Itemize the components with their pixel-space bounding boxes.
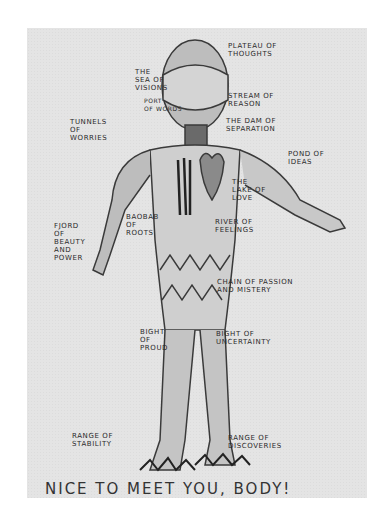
- label-fjord-of-beauty-and-power: FJORD OF BEAUTY AND POWER: [54, 222, 85, 262]
- label-lake-of-love: THE LAKE OF LOVE: [232, 178, 266, 202]
- label-pond-of-ideas: POND OF IDEAS: [288, 150, 324, 166]
- label-dam-of-separation: THE DAM OF SEPARATION: [226, 117, 276, 133]
- label-plateau-of-thoughts: PLATEAU OF THOUGHTS: [228, 42, 277, 58]
- label-chain-of-passion-and-mistery: CHAIN OF PASSION AND MISTERY: [217, 278, 293, 294]
- label-range-of-discoveries: RANGE OF DISCOVERIES: [228, 434, 282, 450]
- label-port-of-words: PORT OF WORDS: [144, 97, 182, 113]
- label-stream-of-reason: STREAM OF REASON: [228, 92, 274, 108]
- label-bight-of-proud: BIGHT OF PROUD: [140, 328, 168, 352]
- label-range-of-stability: RANGE OF STABILITY: [72, 432, 113, 448]
- label-bight-of-uncertainty: BIGHT OF UNCERTAINTY: [216, 330, 271, 346]
- caption-nice-to-meet-you: NICE TO MEET YOU, BODY!: [45, 480, 291, 498]
- label-river-of-feelings: RIVER OF FEELINGS: [215, 218, 254, 234]
- label-sea-of-visions: THE SEA OF VISIONS: [135, 68, 168, 92]
- label-tunnels-of-worries: TUNNELS OF WORRIES: [70, 118, 107, 142]
- label-baobab-of-roots: BAOBAB OF ROOTS: [126, 213, 159, 237]
